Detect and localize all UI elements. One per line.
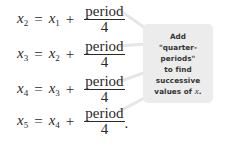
denominator: 4 xyxy=(84,19,124,35)
plus-sign: + xyxy=(66,46,74,63)
equation-x2: x2 = x1 + period 4 xyxy=(17,2,125,36)
numerator: period xyxy=(84,39,124,54)
numerator: period xyxy=(84,74,124,89)
denominator: 4 xyxy=(84,89,124,105)
rhs-variable: x1 xyxy=(49,10,60,28)
equation-x4: x4 = x3 + period 4 xyxy=(17,72,125,106)
fraction: period 4 xyxy=(84,39,124,70)
plus-sign: + xyxy=(66,81,74,98)
trailing-punct: . xyxy=(125,115,129,132)
numerator: period xyxy=(84,106,124,121)
annotation-callout: Add "quarter-periods" to find successive… xyxy=(143,24,213,103)
plus-sign: + xyxy=(66,11,74,28)
equals-sign: = xyxy=(34,46,42,63)
callout-line: to find xyxy=(143,64,213,75)
fraction: period 4 xyxy=(84,106,124,137)
equation-x5: x5 = x4 + period 4 . xyxy=(17,104,128,138)
equals-sign: = xyxy=(34,113,42,130)
numerator: period xyxy=(84,4,124,19)
denominator: 4 xyxy=(84,121,124,137)
fraction: period 4 xyxy=(84,74,124,105)
callout-line: "quarter-periods" xyxy=(143,42,213,64)
plus-sign: + xyxy=(66,113,74,130)
rhs-variable: x2 xyxy=(49,45,60,63)
equals-sign: = xyxy=(34,11,42,28)
lhs-variable: x2 xyxy=(17,10,28,28)
rhs-variable: x4 xyxy=(49,112,60,130)
callout-line: Add xyxy=(143,31,213,42)
equation-x3: x3 = x2 + period 4 xyxy=(17,37,125,71)
fraction: period 4 xyxy=(84,4,124,35)
callout-line: values of x. xyxy=(143,86,213,97)
callout-line: successive xyxy=(143,75,213,86)
lhs-variable: x4 xyxy=(17,80,28,98)
lhs-variable: x5 xyxy=(17,112,28,130)
equals-sign: = xyxy=(34,81,42,98)
rhs-variable: x3 xyxy=(49,80,60,98)
denominator: 4 xyxy=(84,54,124,70)
lhs-variable: x3 xyxy=(17,45,28,63)
